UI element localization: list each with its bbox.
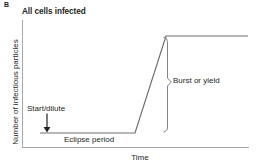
chart-title: All cells infected bbox=[22, 7, 86, 17]
start-dilute-arrow bbox=[44, 114, 51, 133]
y-axis-label: Number of infectious particles bbox=[11, 32, 21, 152]
x-axis-label: Time bbox=[110, 153, 170, 163]
annotation-eclipse-period: Eclipse period bbox=[64, 135, 114, 145]
annotation-burst-or-yield: Burst or yield bbox=[173, 76, 220, 86]
figure-panel-b: B All cells infected Number of infectiou… bbox=[0, 0, 256, 167]
burst-yield-bracket bbox=[164, 37, 172, 132]
panel-letter: B bbox=[4, 0, 9, 9]
annotation-start-dilute: Start/dilute bbox=[27, 104, 65, 114]
